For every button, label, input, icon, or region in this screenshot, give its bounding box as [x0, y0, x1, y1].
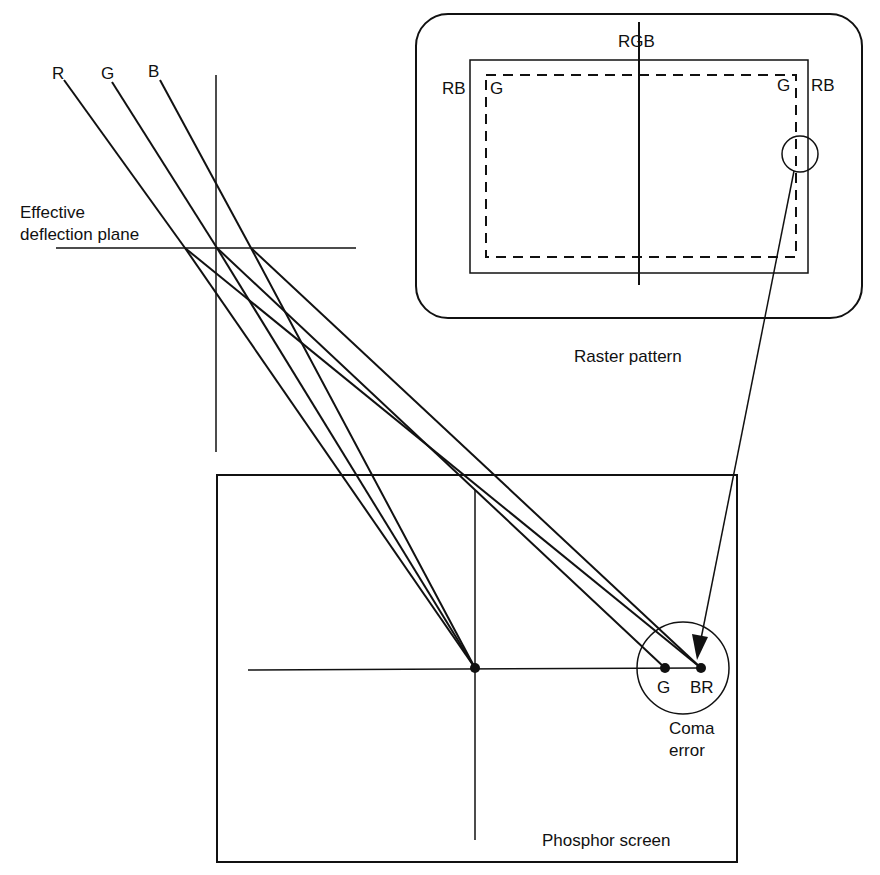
beam-r-to-center — [185, 248, 475, 668]
beam-b-label: B — [148, 62, 159, 81]
deflection-plane-label-line2: deflection plane — [20, 225, 139, 244]
raster-rgb-label: RGB — [618, 32, 655, 51]
raster-g-right-label: G — [777, 76, 790, 95]
beam-g-incoming — [112, 82, 217, 248]
beam-r-incoming — [64, 80, 185, 248]
beam-b-incoming — [160, 80, 251, 248]
beam-b-to-corner — [251, 248, 701, 668]
raster-rb-right-label: RB — [811, 76, 835, 95]
raster-pattern — [416, 14, 862, 318]
phosphor-screen — [217, 475, 737, 862]
raster-g-left-label: G — [490, 79, 503, 98]
coma-error-label-line1: Coma — [669, 719, 715, 738]
beam-r-label: R — [52, 64, 64, 83]
crt-coma-diagram: R G B Effective deflection plane RGB RB … — [0, 0, 880, 875]
arrow-line — [700, 171, 794, 644]
phosphor-screen-label: Phosphor screen — [542, 831, 671, 850]
coma-error-label-line2: error — [669, 741, 705, 760]
beam-g-label: G — [101, 64, 114, 83]
beam-g-to-center — [217, 248, 475, 668]
spot-g — [660, 663, 670, 673]
deflection-plane-label-line1: Effective — [20, 203, 85, 222]
beam-r-to-corner — [185, 248, 701, 668]
raster-rb-left-label: RB — [442, 79, 466, 98]
raster-dashed-rect — [486, 75, 796, 257]
raster-corner-circle — [782, 136, 818, 172]
center-spot — [470, 663, 480, 673]
beam-paths — [64, 80, 701, 668]
spot-br — [696, 663, 706, 673]
spot-g-label: G — [657, 678, 670, 697]
spot-br-label: BR — [690, 678, 714, 697]
raster-caption: Raster pattern — [574, 347, 682, 366]
arrow-head-icon — [692, 634, 708, 660]
